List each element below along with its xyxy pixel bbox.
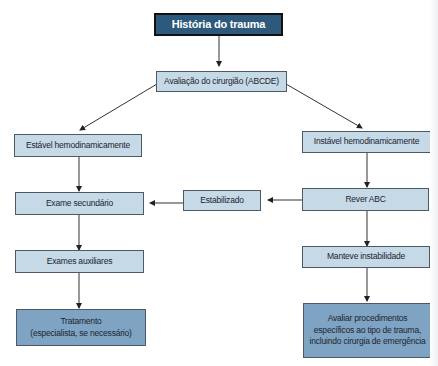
node-exames-auxiliares: Exames auxiliares	[15, 250, 144, 273]
node-tratamento: Tratamento (especialista, se necessário)	[16, 309, 146, 346]
node-label: Exames auxiliares	[47, 256, 113, 267]
node-label: Instável hemodinamicamente	[314, 136, 419, 147]
node-avaliacao-cirurgiao: Avaliação do cirurgião (ABCDE)	[156, 71, 287, 92]
node-label: Estável hemodinamicamente	[26, 140, 130, 151]
node-label: Rever ABC	[345, 194, 385, 205]
edge-avaliacao-instavel	[286, 84, 362, 128]
node-instavel: Instável hemodinamicamente	[302, 131, 431, 153]
node-avaliar-procedimentos: Avaliar procedimentos específicos ao tip…	[303, 303, 432, 358]
node-label-line1: Avaliar procedimentos	[328, 313, 408, 324]
node-label: Exame secundário	[46, 198, 113, 209]
node-label-line2: (especialista, se necessário)	[30, 328, 131, 339]
node-rever-abc: Rever ABC	[302, 188, 429, 211]
node-label: História do trauma	[172, 17, 266, 32]
node-estabilizado: Estabilizado	[183, 190, 261, 211]
node-label-line1: Tratamento	[60, 316, 101, 327]
node-manteve-instabilidade: Manteve instabilidade	[302, 246, 430, 268]
node-label-line2: específicos ao tipo de trauma,	[314, 325, 421, 336]
node-label-line3: incluindo cirurgia de emergência	[310, 336, 426, 347]
node-exame-secundario: Exame secundário	[15, 192, 144, 215]
node-historia-do-trauma: História do trauma	[154, 13, 283, 36]
node-label: Estabilizado	[200, 195, 243, 206]
node-estavel: Estável hemodinamicamente	[14, 134, 142, 157]
node-label: Avaliação do cirurgião (ABCDE)	[164, 76, 279, 87]
edge-avaliacao-estavel	[80, 84, 157, 130]
page-edge-shadow	[430, 0, 438, 366]
node-label: Manteve instabilidade	[327, 251, 405, 262]
